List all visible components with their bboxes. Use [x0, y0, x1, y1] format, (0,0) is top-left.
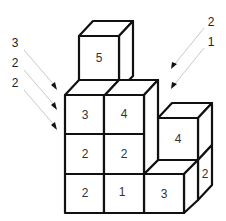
arrow-head-icon	[171, 82, 177, 89]
left-arrow-1	[24, 50, 55, 86]
label-row2-col2: 2	[121, 147, 128, 161]
arrow-head-icon	[51, 102, 57, 110]
left-arrow-label-2: 2	[12, 56, 19, 70]
left-arrow-2	[24, 70, 55, 106]
right-arrow-label-1: 2	[208, 15, 215, 29]
right-arrow-2	[174, 48, 204, 85]
cube-back-right	[158, 103, 212, 160]
arrow-head-icon	[171, 62, 177, 69]
right-arrows: 2 1	[171, 15, 215, 89]
label-row2-col1: 2	[82, 147, 89, 161]
label-row3-col1: 3	[82, 108, 89, 122]
cube-stack-diagram: 5 3 4 2 2 2 1 3 4 2 3 2 2 2 1	[0, 0, 226, 221]
left-arrow-label-1: 3	[12, 36, 19, 50]
cube-front-right	[144, 160, 198, 213]
right-arrow-1	[174, 28, 204, 65]
label-side-right: 2	[202, 167, 209, 181]
left-arrow-3	[24, 90, 55, 126]
arrow-head-icon	[51, 122, 57, 130]
label-row1-col1: 2	[82, 186, 89, 200]
label-top-cube: 5	[96, 51, 103, 65]
main-block	[65, 80, 158, 213]
left-arrow-label-3: 2	[12, 76, 19, 90]
label-back-right: 4	[175, 132, 182, 146]
left-arrows: 3 2 2	[12, 36, 57, 130]
arrow-head-icon	[51, 82, 57, 90]
label-front-right: 3	[161, 187, 168, 201]
right-arrow-label-2: 1	[208, 35, 215, 49]
label-row3-col2: 4	[121, 107, 128, 121]
label-row1-col2: 1	[119, 185, 126, 199]
